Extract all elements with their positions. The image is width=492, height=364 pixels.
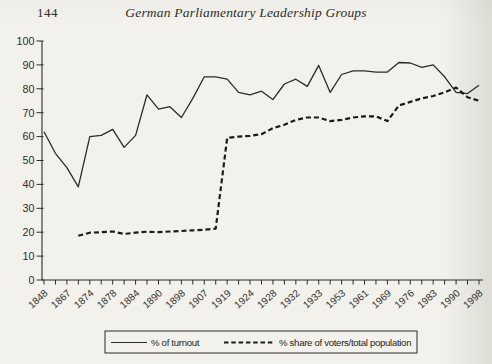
turnout-chart: 0102030405060708090100 18481867187418781… <box>0 0 492 364</box>
x-tick-label: 1890 <box>140 287 164 310</box>
x-tick-label: 1932 <box>278 287 302 310</box>
book-page: 144 German Parliamentary Leadership Grou… <box>0 0 492 364</box>
y-tick-label: 0 <box>28 274 34 286</box>
x-tick-label: 1961 <box>346 287 370 310</box>
y-tick-label: 10 <box>22 250 34 262</box>
x-tick-label: 1884 <box>118 287 142 310</box>
y-tick-label: 30 <box>22 202 34 214</box>
x-tick-label: 1867 <box>49 287 73 310</box>
y-tick-label: 100 <box>16 35 34 47</box>
x-tick-label: 1924 <box>232 287 256 310</box>
x-tick-label: 1998 <box>461 287 485 310</box>
y-tick-label: 20 <box>22 226 34 238</box>
turnout-line <box>44 63 479 187</box>
axes <box>42 41 483 280</box>
legend-share-label: % share of voters/total population <box>279 337 411 348</box>
y-tick-label: 60 <box>22 130 34 142</box>
x-tick-label: 1907 <box>186 287 210 310</box>
legend-turnout-label: % of turnout <box>151 337 200 348</box>
y-axis-labels: 0102030405060708090100 <box>16 35 34 286</box>
x-tick-label: 1953 <box>324 287 348 310</box>
legend: % of turnout % share of voters/total pop… <box>105 331 417 353</box>
chart-series <box>44 63 479 236</box>
x-tick-label: 1898 <box>163 287 187 310</box>
y-tick-label: 80 <box>22 83 34 95</box>
x-tick-label: 1848 <box>26 287 50 310</box>
y-tick-label: 40 <box>22 178 34 190</box>
x-tick-label: 1976 <box>392 287 416 310</box>
voter-share-line <box>78 88 479 236</box>
x-tick-label: 1969 <box>369 287 393 310</box>
x-axis-ticks <box>44 280 479 285</box>
x-tick-label: 1933 <box>301 287 325 310</box>
x-tick-label: 1990 <box>438 287 462 310</box>
x-tick-label: 1983 <box>415 287 439 310</box>
x-tick-label: 1878 <box>95 287 119 310</box>
y-tick-label: 50 <box>22 154 34 166</box>
x-tick-label: 1874 <box>72 287 96 310</box>
x-axis-labels: 1848186718741878188418901898190719191924… <box>26 287 485 310</box>
x-tick-label: 1919 <box>209 287 233 310</box>
x-tick-label: 1928 <box>255 287 279 310</box>
y-tick-label: 90 <box>22 59 34 71</box>
y-tick-label: 70 <box>22 107 34 119</box>
